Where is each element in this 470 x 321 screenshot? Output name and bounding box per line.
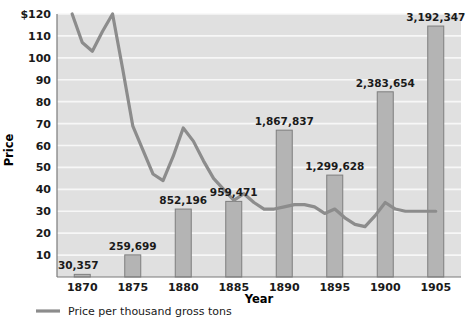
x-tick-1900: 1900 <box>370 281 401 294</box>
x-tick-1880: 1880 <box>168 281 199 294</box>
legend-label-price-per-thousand-gross-tons: Price per thousand gross tons <box>68 305 232 318</box>
bar-value-label-1880: 852,196 <box>159 194 207 206</box>
x-tick-1905: 1905 <box>420 281 451 294</box>
x-axis-title: Year <box>244 292 274 306</box>
y-tick-80: 80 <box>36 96 52 109</box>
bar-1895 <box>327 175 343 277</box>
bar-value-label-1895: 1,299,628 <box>305 160 364 172</box>
y-tick-90: 90 <box>36 74 52 87</box>
bar-value-label-1885: 959,471 <box>210 186 258 198</box>
y-axis-title: Price <box>2 133 16 166</box>
y-tick-70: 70 <box>36 118 52 131</box>
x-tick-1875: 1875 <box>117 281 148 294</box>
x-tick-1870: 1870 <box>67 281 98 294</box>
y-tick-50: 50 <box>36 161 52 174</box>
y-tick-30: 30 <box>36 205 52 218</box>
bar-1890 <box>276 130 292 277</box>
price-production-chart: 30,357259,699852,196959,4711,867,8371,29… <box>0 0 470 321</box>
y-tick-60: 60 <box>36 140 52 153</box>
y-tick-20: 20 <box>36 227 52 240</box>
bar-1900 <box>377 92 393 277</box>
y-tick-10: 10 <box>36 249 52 262</box>
y-tick-120: $120 <box>20 8 51 21</box>
bar-1875 <box>125 255 141 277</box>
chart-container: 30,357259,699852,196959,4711,867,8371,29… <box>0 0 470 321</box>
bar-value-label-1875: 259,699 <box>109 240 157 252</box>
bar-1885 <box>226 201 242 277</box>
y-tick-100: 100 <box>28 52 51 65</box>
bar-value-label-1905: 3,192,347 <box>406 11 465 23</box>
x-tick-1890: 1890 <box>269 281 300 294</box>
x-tick-1895: 1895 <box>319 281 350 294</box>
bar-value-label-1870: 30,357 <box>58 259 99 271</box>
y-tick-40: 40 <box>36 183 52 196</box>
bar-value-label-1900: 2,383,654 <box>356 77 415 89</box>
bar-value-label-1890: 1,867,837 <box>255 115 314 127</box>
y-tick-110: 110 <box>28 30 51 43</box>
bar-1880 <box>175 209 191 277</box>
bar-1905 <box>428 26 444 277</box>
